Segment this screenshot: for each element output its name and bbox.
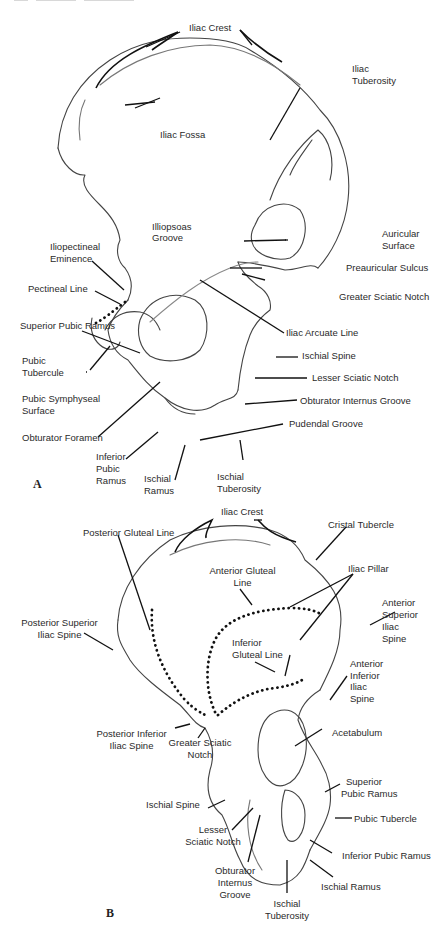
label-b-asis-4: Spine	[382, 633, 406, 645]
leader-lines	[82, 30, 395, 893]
label-a-iliopectineal-eminence-1: Iliopectineal	[50, 241, 100, 253]
label-b-lesser-sciatic-notch-1: Lesser	[178, 824, 248, 836]
label-b-aiis-4: Spine	[350, 693, 374, 705]
label-b-asis-3: Iliac	[382, 621, 399, 633]
label-b-lesser-sciatic-notch-2: Sciatic Notch	[178, 836, 248, 848]
label-a-ischial-ramus-2: Ramus	[144, 485, 174, 497]
label-b-superior-pubic-ramus-1: Superior	[346, 776, 382, 788]
label-a-iliac-tuberosity-2: Tuberosity	[352, 75, 396, 87]
label-b-anterior-gluteal-line-1: Anterior Gluteal	[195, 565, 290, 577]
crest-brackets	[96, 30, 296, 552]
label-a-iliopectineal-eminence-2: Eminence	[50, 253, 92, 265]
panel-letter-b: B	[106, 906, 114, 921]
label-b-psis-2: Iliac Spine	[12, 629, 107, 641]
label-b-ischial-tuberosity-2: Tuberosity	[262, 910, 312, 922]
label-a-inferior-pubic-ramus-2: Pubic	[96, 463, 120, 475]
label-b-iliac-crest: Iliac Crest	[221, 506, 263, 518]
label-b-greater-sciatic-notch-2: Notch	[160, 749, 240, 761]
label-a-pudendal-groove: Pudendal Groove	[289, 418, 363, 430]
label-a-ischial-spine: Ischial Spine	[302, 350, 356, 362]
label-a-superior-pubic-ramus: Superior Pubic Ramus	[20, 320, 115, 332]
label-b-pubic-tubercle: Pubic Tubercle	[354, 813, 417, 825]
label-b-asis-1: Anterior	[382, 597, 415, 609]
label-b-greater-sciatic-notch-1: Greater Sciatic	[160, 737, 240, 749]
panel-letter-a: A	[33, 477, 42, 492]
label-a-auricular-surface-1: Auricular	[382, 228, 420, 240]
label-a-iliac-arcuate-line: Iliac Arcuate Line	[286, 327, 358, 339]
label-b-inferior-gluteal-line-2: Gluteal Line	[232, 649, 283, 661]
label-b-iliac-pillar: Iliac Pillar	[348, 563, 389, 575]
label-b-posterior-gluteal-line: Posterior Gluteal Line	[83, 527, 174, 539]
label-a-illiopsoas-groove-1: Illiopsoas	[152, 221, 192, 233]
label-a-ischial-tuberosity-2: Tuberosity	[217, 483, 261, 495]
label-a-iliac-fossa: Iliac Fossa	[160, 129, 205, 141]
label-b-ischial-tuberosity-1: Ischial	[262, 898, 312, 910]
label-a-iliac-tuberosity-1: Iliac	[352, 63, 369, 75]
label-a-pubic-symphyseal-surface-2: Surface	[22, 405, 55, 417]
label-a-obturator-internus-groove: Obturator Internus Groove	[300, 395, 411, 407]
label-b-ischial-spine: Ischial Spine	[146, 799, 200, 811]
label-a-ischial-ramus-1: Ischial	[144, 473, 171, 485]
label-a-lesser-sciatic-notch: Lesser Sciatic Notch	[312, 372, 399, 384]
label-a-inferior-pubic-ramus-1: Inferior	[96, 451, 126, 463]
label-b-obturator-internus-groove-1: Obturator	[210, 865, 260, 877]
label-a-pubic-tubercule-2: Tubercule	[22, 367, 64, 379]
label-b-acetabulum: Acetabulum	[332, 727, 382, 739]
anatomy-figure-page: Iliac Crest Iliac Tuberosity Iliac Fossa…	[0, 0, 446, 936]
label-b-obturator-internus-groove-2: Internus	[210, 877, 260, 889]
gluteal-lines-dotted	[152, 608, 322, 715]
label-a-illiopsoas-groove-2: Groove	[152, 232, 183, 244]
label-b-obturator-internus-groove-3: Groove	[210, 889, 260, 901]
label-b-aiis-2: Inferior	[350, 670, 380, 682]
label-b-asis-2: Superior	[382, 609, 418, 621]
label-a-inferior-pubic-ramus-3: Ramus	[96, 475, 126, 487]
label-b-superior-pubic-ramus-2: Pubic Ramus	[341, 788, 398, 800]
label-a-pectineal-line: Pectineal Line	[28, 283, 88, 295]
label-a-auricular-surface-2: Surface	[382, 240, 415, 252]
label-a-preauricular-sulcus: Preauricular Sulcus	[346, 262, 428, 274]
label-b-ischial-ramus: Ischial Ramus	[321, 881, 381, 893]
label-a-pubic-tubercule-1: Pubic	[22, 355, 46, 367]
label-b-inferior-pubic-ramus: Inferior Pubic Ramus	[342, 850, 431, 862]
label-b-aiis-3: Iliac	[350, 681, 367, 693]
label-a-ischial-tuberosity-1: Ischial	[217, 471, 244, 483]
label-b-cristal-tubercle: Cristal Tubercle	[328, 519, 394, 531]
label-b-psis-1: Posterior Superior	[12, 617, 107, 629]
label-b-anterior-gluteal-line-2: Line	[195, 577, 290, 589]
label-b-aiis-1: Anterior	[350, 658, 383, 670]
label-a-obturator-foramen: Obturator Foramen	[22, 432, 103, 444]
label-a-greater-sciatic-notch: Greater Sciatic Notch	[339, 291, 429, 303]
label-b-inferior-gluteal-line-1: Inferior	[232, 637, 262, 649]
label-a-iliac-crest: Iliac Crest	[189, 22, 231, 34]
label-a-pubic-symphyseal-surface-1: Pubic Symphyseal	[22, 393, 100, 405]
